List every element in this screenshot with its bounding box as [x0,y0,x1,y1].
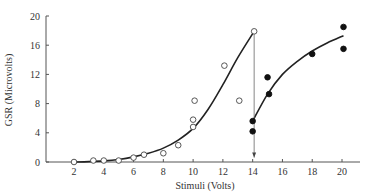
filled-data-point [250,129,256,135]
open-data-point [222,63,228,69]
filled-data-point [266,91,272,97]
y-tick-label: 8 [35,98,40,109]
x-tick-label: 18 [307,166,317,177]
open-data-point [101,158,107,164]
x-tick-label: 2 [72,166,77,177]
y-tick-label: 4 [35,127,40,138]
open-data-point [116,158,122,164]
y-tick-label: 12 [30,69,40,80]
y-tick-label: 20 [30,11,40,22]
open-data-point [91,158,97,164]
open-data-point [190,124,196,130]
y-tick-label: 16 [30,40,40,51]
filled-data-point [341,46,347,52]
gsr-chart: 2468101214161820048121620 Stimuli (Volts… [0,0,378,196]
y-tick-label: 0 [35,157,40,168]
x-tick-label: 10 [188,166,198,177]
open-data-point [71,159,77,165]
filled-data-point [341,24,347,30]
fit-curve [74,31,254,162]
x-tick-label: 16 [277,166,287,177]
axes: 2468101214161820048121620 [30,11,360,178]
open-data-point [192,98,198,104]
x-axis-label: Stimuli (Volts) [176,180,235,192]
x-tick-label: 14 [248,166,258,177]
open-data-point [175,142,181,148]
annotations [252,31,256,157]
open-data-point [251,29,257,35]
x-tick-label: 6 [131,166,136,177]
filled-data-point [309,51,315,57]
filled-data-point [265,75,271,81]
y-axis-label: GSR (Microvolts) [3,54,15,127]
filled-data-point [250,118,256,124]
open-data-point [131,155,137,161]
open-data-point [161,150,167,156]
data-points [71,24,346,165]
arrow-head-icon [252,153,256,158]
x-tick-label: 12 [218,166,228,177]
x-tick-label: 8 [161,166,166,177]
x-tick-label: 4 [101,166,106,177]
open-data-point [190,117,196,123]
fit-curves [74,31,343,162]
open-data-point [236,98,242,104]
open-data-point [141,152,147,158]
x-tick-label: 20 [337,166,347,177]
